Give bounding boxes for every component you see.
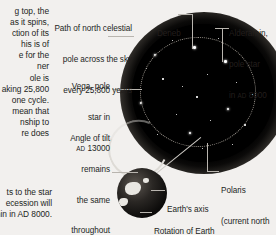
callout-alderamin-line3: in AD 8000 xyxy=(229,91,276,101)
leader-polaris-h xyxy=(207,171,219,172)
callout-polaris-line1: Polaris xyxy=(221,186,276,196)
callout-angle-line4: throughout xyxy=(50,226,110,235)
callout-alderamin-year: 8000 xyxy=(249,91,267,100)
callout-deneb: Deneb xyxy=(157,9,181,60)
leader-earth-axis xyxy=(151,190,165,191)
callout-alderamin-line1: Alderamin, xyxy=(229,29,276,39)
continent-shape xyxy=(143,178,149,183)
callout-path-of-pole-line1: Path of north celestial xyxy=(52,24,132,34)
body-text-column-1: g top, the as it spins, ction of its his… xyxy=(0,6,49,139)
callout-alderamin: Alderamin, pole star in AD 8000 xyxy=(229,9,276,121)
continent-shape xyxy=(125,182,141,195)
callout-rotation: Rotation of Earth around its axis xyxy=(154,207,224,235)
star xyxy=(232,144,233,145)
body-text-column-2: ts to the star ecession will amin in AD … xyxy=(0,187,52,220)
callout-alderamin-line2: pole star xyxy=(229,60,276,70)
callout-rotation-line1: Rotation of Earth xyxy=(154,227,224,235)
leader-rotation xyxy=(140,212,152,213)
star xyxy=(218,38,219,39)
callout-vega-line1: Vega, pole xyxy=(52,82,110,92)
leader-deneb-v xyxy=(192,14,193,49)
callout-polaris-line2: (current north xyxy=(221,217,276,227)
era-label-ad: AD xyxy=(238,92,247,99)
leader-polaris-v xyxy=(207,143,208,171)
callout-angle-line2: remains xyxy=(50,165,110,175)
star xyxy=(202,148,203,149)
leader-angle-of-tilt xyxy=(112,172,138,173)
continent-shape xyxy=(119,198,128,206)
callout-deneb-line1: Deneb xyxy=(157,29,181,39)
precession-diagram: g top, the as it spins, ction of its his… xyxy=(0,0,276,235)
leader-alderamin-v xyxy=(222,28,223,62)
callout-angle-line3: the same xyxy=(50,196,110,206)
callout-polaris: Polaris (current north Pole Star) xyxy=(221,166,276,235)
callout-alderamin-prefix: in xyxy=(229,91,235,100)
callout-angle-line1: Angle of tilt xyxy=(50,134,110,144)
callout-angle-of-tilt: Angle of tilt remains the same throughou… xyxy=(50,114,110,235)
